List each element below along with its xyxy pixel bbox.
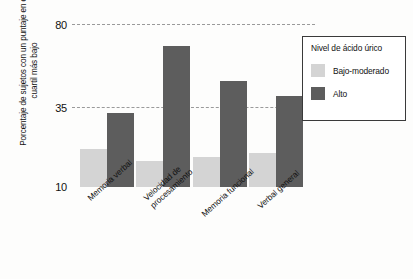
y-tick-label-35: 35	[55, 102, 67, 114]
legend-title: Nivel de ácido úrico	[311, 43, 398, 53]
legend-label-alto: Alto	[333, 89, 347, 99]
plot-area: 80 35 10	[72, 18, 317, 190]
bar-chart-figure: Porcentaje de sujetos con un puntaje en …	[0, 0, 413, 279]
y-axis-title: Porcentaje de sujetos con un puntaje en …	[19, 0, 40, 156]
y-tick-label-10: 10	[55, 181, 67, 193]
legend-label-bajo-moderado: Bajo-moderado	[333, 66, 389, 76]
legend-swatch-alto	[311, 87, 325, 100]
legend-item-bajo-moderado: Bajo-moderado	[311, 64, 398, 77]
legend-swatch-bajo-moderado	[311, 64, 325, 77]
y-tick-label-80: 80	[55, 19, 67, 31]
legend-box: Nivel de ácido úrico Bajo-moderado Alto	[302, 36, 406, 121]
legend-item-alto: Alto	[311, 87, 398, 100]
bar-groups	[72, 18, 317, 190]
bar	[193, 157, 220, 187]
x-axis-labels: Memoria verbalVelocidad deprocesamientoM…	[72, 190, 332, 279]
